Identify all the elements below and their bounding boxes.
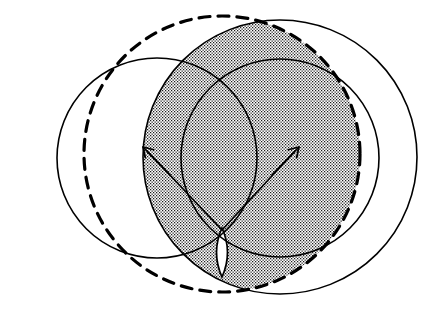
geometry-figure xyxy=(0,0,440,311)
shaded-lens-region xyxy=(0,0,440,311)
figure-container xyxy=(0,0,440,311)
